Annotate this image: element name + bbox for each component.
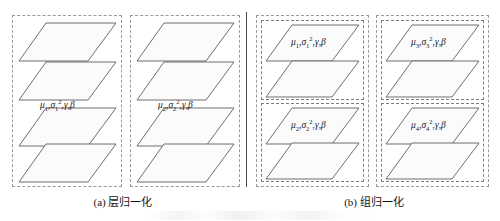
param-label-b4: μ4,σ42,γ,β	[411, 118, 446, 132]
sigma-superscript-b4: 2	[429, 118, 432, 125]
normalization-figure: μ1,σ12,γ,β μ2,σ22,γ,β	[0, 0, 500, 221]
mu-subscript-a1: 1	[45, 105, 48, 112]
sigma-superscript-b1: 2	[309, 35, 312, 42]
sigma-superscript-b3: 2	[429, 35, 432, 42]
param-label-a1: μ1,σ12,γ,β	[40, 98, 75, 112]
sigma-subscript-b2: 2	[306, 125, 309, 132]
sigma-superscript-a2: 2	[176, 98, 179, 105]
sigma-subscript-b3: 3	[426, 42, 429, 49]
sigma-subscript-b1: 1	[306, 42, 309, 49]
sigma-superscript-b2: 2	[309, 118, 312, 125]
param-label-a2: μ2,σ22,γ,β	[158, 98, 193, 112]
panel-divider	[246, 12, 247, 187]
mu-subscript-b4: 4	[416, 125, 419, 132]
sigma-subscript-a1: 1	[55, 105, 58, 112]
param-label-b3: μ3,σ32,γ,β	[411, 35, 446, 49]
caption-panel-a: (a) 层归一化	[0, 193, 246, 209]
panel-group-normalization: μ1,σ12,γ,β μ2,σ22,γ,β μ3,σ32,γ,β μ4,σ42,…	[248, 0, 500, 221]
sigma-subscript-a2: 2	[173, 105, 176, 112]
sigma-superscript-a1: 2	[58, 98, 61, 105]
sigma-subscript-b4: 4	[426, 125, 429, 132]
panel-layer-normalization: μ1,σ12,γ,β μ2,σ22,γ,β	[0, 0, 246, 221]
mu-subscript-a2: 2	[163, 105, 166, 112]
mu-subscript-b2: 2	[296, 125, 299, 132]
mu-subscript-b3: 3	[416, 42, 419, 49]
param-label-b2: μ2,σ22,γ,β	[291, 118, 326, 132]
mu-subscript-b1: 1	[296, 42, 299, 49]
param-label-b1: μ1,σ12,γ,β	[291, 35, 326, 49]
caption-panel-b: (b) 组归一化	[248, 193, 500, 209]
cropped-text-remnant	[150, 211, 370, 220]
